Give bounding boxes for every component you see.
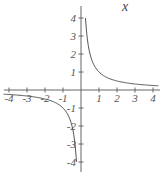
y-tick-label: -4 <box>67 156 77 168</box>
x-tick-label: 2 <box>114 92 120 104</box>
y-tick-label: 3 <box>70 30 77 42</box>
x-axis-label: x <box>121 0 129 14</box>
function-plot: -4-3-2-11234-4-3-2-11234 x <box>0 0 162 174</box>
y-tick-label: 1 <box>71 66 77 78</box>
y-tick-label: -3 <box>67 138 77 150</box>
y-tick-label: -2 <box>67 120 77 132</box>
x-tick-label: 3 <box>131 92 138 104</box>
x-tick-label: 4 <box>150 92 156 104</box>
y-tick-label: -1 <box>67 102 76 114</box>
y-tick-label: 4 <box>71 12 77 24</box>
x-tick-label: -2 <box>40 92 50 104</box>
axes <box>4 6 160 172</box>
x-tick-label: -3 <box>22 92 32 104</box>
curve-negative-branch <box>4 94 77 162</box>
curve-positive-branch <box>86 18 159 86</box>
x-tick-label: -4 <box>4 92 14 104</box>
x-tick-label: 1 <box>96 92 102 104</box>
y-tick-label: 2 <box>71 48 77 60</box>
